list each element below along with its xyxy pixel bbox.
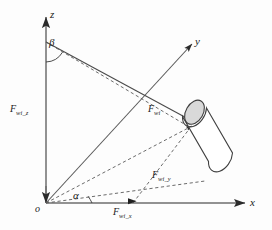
force-z-subscript: wi_z bbox=[16, 109, 28, 116]
x-foot-dashed-line bbox=[133, 128, 190, 203]
force-resultant-label: Fwi bbox=[148, 104, 160, 114]
alpha-ground-dashed bbox=[46, 181, 205, 203]
force-x-subscript: wi_x bbox=[119, 212, 132, 219]
force-y-component-label: Fwi_y bbox=[152, 170, 171, 180]
origin-label: o bbox=[35, 204, 40, 214]
beta-arc-path bbox=[46, 52, 63, 62]
angle-alpha-arc bbox=[88, 196, 92, 203]
angle-alpha-label: α bbox=[73, 190, 79, 201]
origin-to-object-dashed bbox=[46, 126, 192, 203]
angle-beta-arc bbox=[46, 52, 63, 62]
force-y-subscript: wi_y bbox=[158, 175, 171, 182]
axis-x-label: x bbox=[250, 197, 255, 208]
force-x-component-label: Fwi_x bbox=[113, 207, 132, 217]
cylinder-object bbox=[181, 97, 233, 172]
force-resultant-line bbox=[46, 42, 194, 122]
axis-z-label: z bbox=[50, 9, 54, 20]
axis-y-label: y bbox=[195, 36, 200, 47]
force-resultant-subscript: wi bbox=[154, 109, 160, 116]
force-resultant-vector bbox=[46, 42, 194, 122]
beta-dashed-line bbox=[46, 42, 196, 131]
angle-beta-label: β bbox=[49, 37, 54, 48]
force-z-component-label: Fwi_z bbox=[10, 104, 28, 114]
force-decomposition-diagram: z y x o α β Fwi_z Fwi Fwi_y Fwi_x bbox=[0, 0, 272, 230]
beta-reference-dashed bbox=[46, 42, 196, 131]
alpha-dashed-line bbox=[46, 181, 205, 203]
x-foot-to-object-dashed bbox=[133, 128, 190, 203]
projection-dashed-to-object bbox=[46, 126, 192, 203]
alpha-arc-path bbox=[88, 196, 92, 203]
diagram-canvas bbox=[0, 0, 272, 230]
